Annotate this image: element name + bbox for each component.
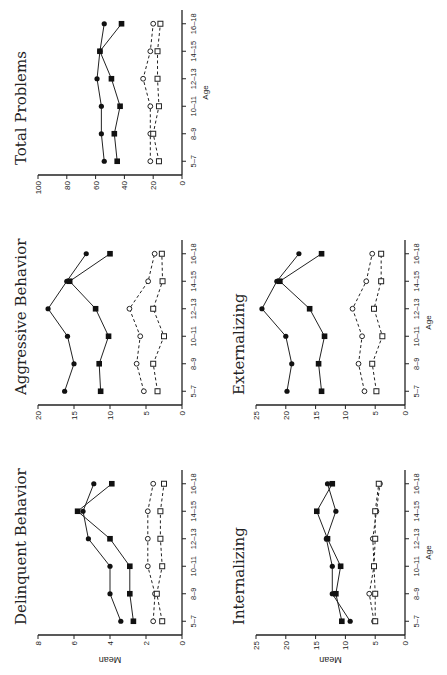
figure-stage: Delinquent Behavior024685–78–910–1112–13… [0, 0, 447, 675]
data-point-marker [155, 49, 160, 54]
data-point-marker [109, 481, 115, 487]
data-point-marker [98, 388, 104, 394]
data-point-marker [314, 508, 320, 514]
series-line [100, 24, 122, 162]
x-tick-label: 8–9 [412, 357, 421, 370]
series-line [153, 254, 164, 392]
data-point-marker [102, 21, 107, 26]
data-point-marker [319, 388, 325, 394]
data-point-marker [367, 591, 372, 596]
data-point-marker [156, 104, 161, 109]
data-point-marker [360, 334, 365, 339]
data-point-marker [148, 49, 153, 54]
x-tick-label: 5–7 [189, 155, 198, 168]
data-point-marker [80, 509, 85, 514]
data-point-marker [94, 76, 99, 81]
data-point-marker [131, 618, 137, 624]
data-point-marker [325, 536, 331, 542]
data-point-marker [151, 481, 156, 486]
series-line [83, 484, 121, 622]
y-axis-label: Mean [99, 655, 122, 665]
data-point-marker [259, 306, 264, 311]
data-point-marker [127, 591, 133, 597]
data-point-marker [151, 619, 156, 624]
x-tick-label: 5–7 [189, 385, 198, 398]
y-tick-label: 10 [341, 410, 350, 419]
data-point-marker [141, 389, 146, 394]
data-point-marker [333, 509, 338, 514]
data-point-marker [159, 251, 164, 256]
x-axis-label: Age [201, 85, 210, 100]
data-point-marker [307, 306, 313, 312]
line-chart: 024685–78–910–1112–1314–1516–18Mean [32, 460, 222, 665]
data-point-marker [107, 536, 113, 542]
data-point-marker [86, 536, 91, 541]
data-point-marker [67, 278, 73, 284]
data-point-marker [93, 306, 99, 312]
x-tick-label: 5–7 [412, 615, 421, 628]
data-point-marker [151, 306, 156, 311]
y-tick-label: 25 [252, 640, 261, 649]
series-line [280, 254, 325, 392]
y-tick-label: 100 [34, 180, 43, 194]
data-point-marker [160, 564, 165, 569]
x-tick-label: 16–18 [189, 13, 198, 34]
data-point-marker [333, 591, 339, 597]
data-point-marker [45, 306, 50, 311]
data-point-marker [155, 76, 160, 81]
y-tick-label: 5 [371, 640, 380, 645]
data-point-marker [107, 564, 112, 569]
data-point-marker [151, 21, 156, 26]
data-point-marker [372, 564, 377, 569]
y-tick-label: 5 [371, 410, 380, 415]
y-axis-label: Mean [319, 655, 342, 665]
x-tick-label: 12–13 [412, 298, 421, 319]
y-tick-label: 10 [106, 410, 115, 419]
x-tick-label: 16–18 [412, 473, 421, 494]
data-point-marker [71, 361, 76, 366]
data-point-marker [118, 619, 123, 624]
data-point-marker [162, 334, 167, 339]
y-tick-label: 8 [34, 640, 43, 645]
x-tick-label: 10–11 [412, 326, 421, 346]
series-line [143, 24, 153, 162]
series-line [374, 484, 379, 622]
x-tick-label: 14–15 [189, 501, 198, 522]
x-tick-label: 8–9 [189, 127, 198, 140]
y-tick-label: 4 [106, 640, 115, 645]
x-tick-label: 5–7 [412, 385, 421, 398]
x-tick-label: 16–18 [412, 243, 421, 264]
y-tick-label: 20 [282, 640, 291, 649]
y-tick-label: 15 [70, 410, 79, 419]
data-point-marker [96, 361, 102, 367]
y-tick-label: 20 [282, 410, 291, 419]
panel-delinquent-behavior: Delinquent Behavior024685–78–910–1112–13… [10, 460, 220, 665]
data-point-marker [364, 279, 369, 284]
data-point-marker [97, 48, 103, 54]
x-tick-label: 14–15 [412, 271, 421, 292]
data-point-marker [155, 389, 160, 394]
series-line [353, 254, 373, 392]
line-chart: 0204060801005–78–910–1112–1314–1516–18Ag… [32, 0, 222, 205]
series-line [129, 254, 154, 392]
chart-title: Aggressive Behavior [12, 239, 30, 395]
data-point-marker [65, 334, 70, 339]
data-point-marker [99, 131, 104, 136]
data-point-marker [151, 131, 156, 136]
x-tick-label: 8–9 [412, 587, 421, 600]
y-tick-label: 20 [34, 410, 43, 419]
y-tick-label: 80 [63, 180, 72, 189]
y-tick-label: 0 [401, 410, 410, 415]
panel-total-problems: Total Problems0204060801005–78–910–1112–… [10, 0, 220, 205]
x-tick-label: 12–13 [189, 68, 198, 89]
data-point-marker [102, 159, 107, 164]
series-line [70, 254, 110, 392]
series-line [372, 254, 382, 392]
data-point-marker [154, 591, 159, 596]
y-tick-label: 0 [401, 640, 410, 645]
data-point-marker [373, 536, 378, 541]
y-tick-label: 15 [312, 640, 321, 649]
data-point-marker [350, 306, 355, 311]
data-point-marker [119, 21, 125, 27]
chart-title: Delinquent Behavior [12, 468, 30, 625]
